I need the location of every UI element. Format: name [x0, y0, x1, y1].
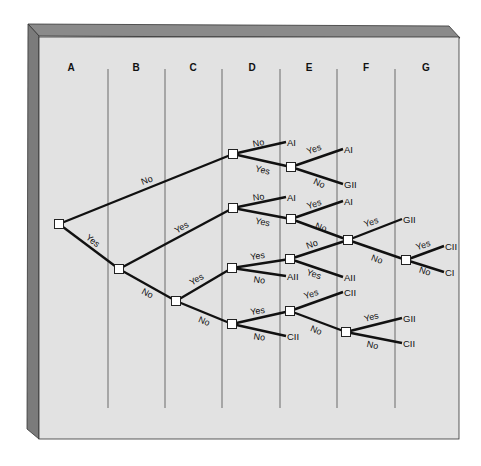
- board-top-edge: [28, 24, 460, 38]
- edge-label: No: [253, 274, 266, 286]
- edge-label: No: [252, 137, 265, 149]
- column-label-f: F: [363, 62, 369, 73]
- column-label-d: D: [248, 62, 255, 73]
- column-label-e: E: [306, 62, 313, 73]
- edge-label: Yes: [250, 250, 266, 262]
- leaf-outcome-label: CII: [344, 287, 356, 298]
- decision-node-e3: [286, 255, 295, 264]
- column-label-g: G: [422, 62, 430, 73]
- leaf-outcome-label: CII: [445, 241, 457, 252]
- decision-node-e1: [287, 163, 296, 172]
- leaf-outcome-label: AI: [344, 144, 353, 155]
- decision-node-e4: [286, 307, 295, 316]
- decision-node-d1: [229, 150, 238, 159]
- decision-node-e2: [287, 215, 296, 224]
- edge-label: No: [252, 191, 265, 203]
- board-left-edge: [27, 24, 39, 439]
- decision-node-d2: [229, 204, 238, 213]
- decision-node-a: [55, 220, 64, 229]
- leaf-outcome-label: AI: [287, 192, 296, 203]
- decision-node-d3: [228, 264, 237, 273]
- leaf-outcome-label: CI: [445, 267, 455, 278]
- leaf-outcome-label: AI: [287, 137, 296, 148]
- edge-label: No: [253, 331, 266, 343]
- decision-node-f1: [344, 236, 353, 245]
- leaf-outcome-label: CII: [403, 338, 415, 349]
- column-label-b: B: [132, 62, 139, 73]
- edge-label: Yes: [250, 305, 266, 317]
- leaf-outcome-label: AII: [344, 272, 356, 283]
- board-face: [39, 37, 459, 439]
- decision-node-d4: [228, 320, 237, 329]
- column-label-c: C: [189, 62, 196, 73]
- column-label-a: A: [67, 62, 74, 73]
- decision-tree-canvas: ABCDEFG AIAIGIIAIAIGIICIICIAIIAIICIICIIG…: [0, 0, 481, 466]
- decision-node-g1: [402, 256, 411, 265]
- leaf-outcome-label: GII: [344, 179, 357, 190]
- leaf-outcome-label: AII: [287, 271, 299, 282]
- decision-node-c: [172, 297, 181, 306]
- leaf-outcome-label: GII: [403, 313, 416, 324]
- leaf-outcome-label: CII: [287, 331, 299, 342]
- decision-node-f2: [342, 328, 351, 337]
- decision-tree-figure: ABCDEFG AIAIGIIAIAIGIICIICIAIIAIICIICIIG…: [0, 0, 481, 466]
- decision-node-b: [115, 265, 124, 274]
- leaf-outcome-label: GII: [403, 214, 416, 225]
- leaf-outcome-label: AI: [344, 196, 353, 207]
